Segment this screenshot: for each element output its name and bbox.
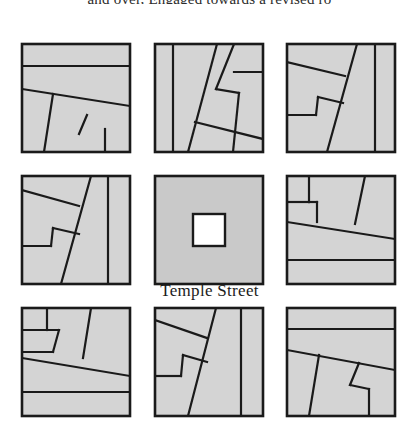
blocks-layer	[22, 44, 395, 416]
block-grid-svg	[0, 0, 419, 444]
block-bottom-right-fill	[287, 308, 395, 416]
block-center-courtyard[interactable]	[155, 176, 263, 284]
block-middle-left[interactable]	[22, 176, 130, 284]
figure-root: and over, Engaged towards a revised ro T…	[0, 0, 419, 444]
block-top-left[interactable]	[22, 44, 130, 152]
block-top-right[interactable]	[287, 44, 395, 152]
block-bottom-left[interactable]	[22, 308, 130, 416]
block-bottom-right[interactable]	[287, 308, 395, 416]
block-top-center[interactable]	[155, 44, 263, 152]
block-center-courtyard-courtyard	[193, 214, 225, 246]
block-bottom-center[interactable]	[155, 308, 263, 416]
block-bottom-left-fill	[22, 308, 130, 416]
street-label-temple-street: Temple Street	[0, 281, 419, 301]
block-bottom-center-fill	[155, 308, 263, 416]
block-middle-right[interactable]	[287, 176, 395, 284]
